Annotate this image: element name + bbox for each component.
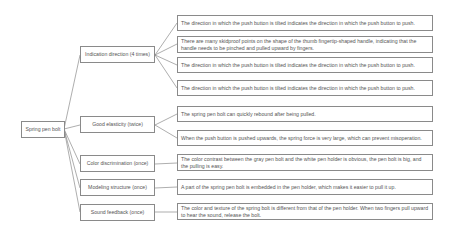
category-indication-direction: Indication direction (4 times) <box>80 46 155 63</box>
root-node: Spring pen bolt <box>21 121 65 138</box>
leaf-node: When the push button is pushed upwards, … <box>177 130 433 146</box>
category-color-discrimination: Color discrimination (once) <box>80 155 155 172</box>
leaf-node: The color and texture of the spring bolt… <box>177 203 433 220</box>
leaf-node: The direction in which the push button i… <box>177 80 433 96</box>
leaf-node: The direction in which the push button i… <box>177 15 433 31</box>
category-modeling-structure: Modeling structure (once) <box>80 179 155 196</box>
leaf-node: A part of the spring pen bolt is embedde… <box>177 179 433 195</box>
leaf-node: The direction in which the push button i… <box>177 57 433 73</box>
category-sound-feedback: Sound feedback (once) <box>80 204 155 221</box>
leaf-node: The color contrast between the gray pen … <box>177 154 433 171</box>
leaf-node: There are many skidproof points on the s… <box>177 36 433 53</box>
leaf-node: The spring pen bolt can quickly rebound … <box>177 106 433 122</box>
category-good-elasticity: Good elasticity (twice) <box>80 116 155 133</box>
